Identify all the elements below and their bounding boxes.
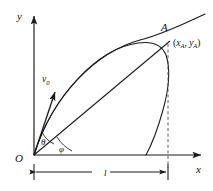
x-axis-label: x [195, 163, 201, 175]
diagram-canvas: y x O A θ φ l v0 (xA, yA) [0, 0, 213, 191]
velocity-subscript: 0 [46, 79, 50, 86]
figure-caption [0, 182, 213, 191]
coordinate-label: (xA, yA) [173, 38, 201, 49]
projectile-diagram: y x O A θ φ l v0 (xA, yA) [0, 0, 213, 191]
coord-paren-close: ) [197, 38, 200, 49]
point-a-label: A [160, 21, 168, 33]
range-label: l [104, 168, 107, 178]
angle-theta-label: θ [41, 137, 46, 147]
origin-label: O [15, 152, 23, 164]
velocity-label: v0 [42, 74, 50, 86]
angle-phi-label: φ [59, 144, 64, 154]
y-axis-label: y [16, 10, 22, 22]
